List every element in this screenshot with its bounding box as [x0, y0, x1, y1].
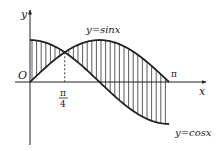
cos-curve-label: y=cosx [174, 127, 212, 138]
quarter-pi-denominator: 4 [60, 99, 66, 109]
y-axis-label: y [20, 8, 28, 21]
origin-label: O [18, 69, 27, 82]
sin-curve-label: y=sinx [85, 24, 121, 35]
quarter-pi-numerator: π [60, 88, 66, 98]
area-between-curves-diagram: y x O y=sinx y=cosx π π 4 [0, 0, 218, 151]
pi-tick-label: π [171, 69, 177, 79]
sin-curve [30, 40, 169, 82]
x-axis-label: x [199, 85, 206, 98]
